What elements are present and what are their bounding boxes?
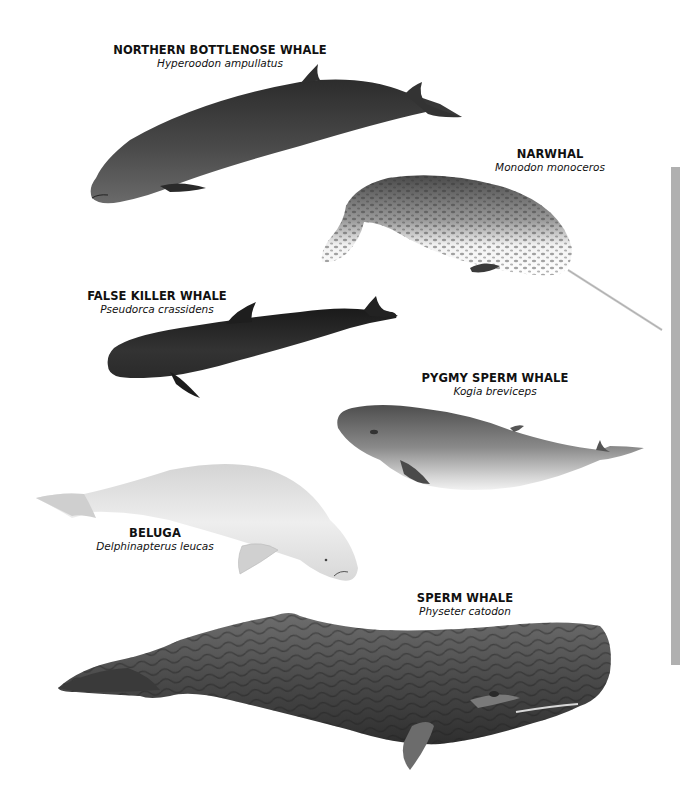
species-label-narwhal: NARWHAL Monodon monoceros (480, 148, 620, 173)
pygmy-sperm-whale-illustration (337, 405, 644, 490)
common-name: BELUGA (85, 527, 225, 540)
common-name: FALSE KILLER WHALE (72, 290, 242, 303)
common-name: PYGMY SPERM WHALE (410, 372, 580, 385)
scientific-name: Monodon monoceros (480, 161, 620, 173)
scientific-name: Delphinapterus leucas (85, 540, 225, 552)
beluga-illustration (36, 464, 358, 581)
species-label-pygmy-sperm-whale: PYGMY SPERM WHALE Kogia breviceps (410, 372, 580, 397)
common-name: NORTHERN BOTTLENOSE WHALE (110, 44, 330, 57)
species-label-false-killer-whale: FALSE KILLER WHALE Pseudorca crassidens (72, 290, 242, 315)
scientific-name: Pseudorca crassidens (72, 303, 242, 315)
common-name: NARWHAL (480, 148, 620, 161)
whale-illustrations (0, 0, 680, 810)
scientific-name: Kogia breviceps (410, 385, 580, 397)
scientific-name: Hyperoodon ampullatus (110, 57, 330, 69)
common-name: SPERM WHALE (405, 592, 525, 605)
scientific-name: Physeter catodon (405, 605, 525, 617)
species-label-northern-bottlenose-whale: NORTHERN BOTTLENOSE WHALE Hyperoodon amp… (110, 44, 330, 69)
species-label-beluga: BELUGA Delphinapterus leucas (85, 527, 225, 552)
whale-illustration-page: NORTHERN BOTTLENOSE WHALE Hyperoodon amp… (0, 0, 680, 810)
page-edge-tab (671, 167, 680, 665)
species-label-sperm-whale: SPERM WHALE Physeter catodon (405, 592, 525, 617)
sperm-whale-illustration (58, 613, 611, 770)
